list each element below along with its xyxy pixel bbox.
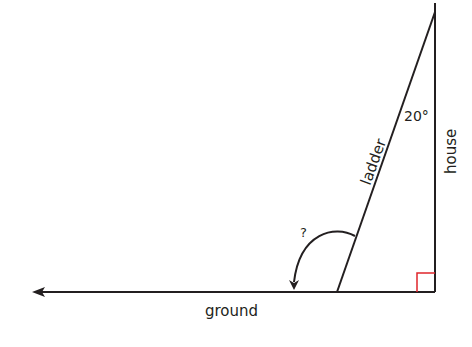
house-label: house (442, 129, 460, 174)
ground-label: ground (205, 302, 258, 320)
angle-top-label: 20° (404, 108, 429, 124)
right-angle-marker (417, 273, 435, 292)
diagram-canvas: ? 20° ladder house ground (0, 0, 472, 347)
ladder-label: ladder (357, 136, 391, 188)
angle-unknown-label: ? (300, 225, 307, 240)
ladder-diagram: ? 20° ladder house ground (0, 0, 472, 347)
